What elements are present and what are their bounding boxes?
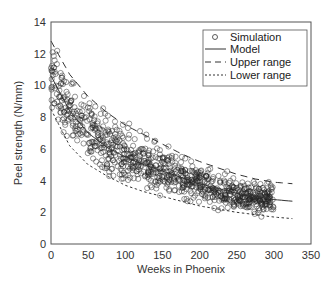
x-tick-label: 300	[265, 249, 283, 261]
y-tick-label: 4	[40, 175, 46, 187]
legend-simulation: Simulation	[230, 31, 281, 43]
y-axis-ticks: 02468101214	[34, 16, 46, 250]
legend-upper: Upper range	[230, 56, 291, 68]
x-tick-label: 0	[48, 249, 54, 261]
peel-strength-chart: 02468101214 050100150200250300350 Weeks …	[0, 0, 336, 290]
x-tick-label: 150	[153, 249, 171, 261]
legend-model: Model	[230, 43, 260, 55]
y-tick-label: 2	[40, 206, 46, 218]
x-tick-label: 100	[116, 249, 134, 261]
y-axis-label: Peel strength (N/mm)	[12, 81, 24, 186]
y-tick-label: 0	[40, 238, 46, 250]
x-tick-label: 250	[228, 249, 246, 261]
legend: Simulation Model Upper range Lower range	[203, 30, 307, 86]
y-tick-label: 14	[34, 16, 46, 28]
x-tick-label: 350	[302, 249, 320, 261]
y-tick-label: 6	[40, 143, 46, 155]
legend-lower: Lower range	[230, 69, 291, 81]
x-tick-label: 50	[82, 249, 94, 261]
y-tick-label: 8	[40, 111, 46, 123]
x-axis-ticks: 050100150200250300350	[48, 249, 320, 261]
x-tick-label: 200	[190, 249, 208, 261]
y-tick-label: 10	[34, 79, 46, 91]
x-axis-label: Weeks in Phoenix	[137, 263, 225, 275]
y-tick-label: 12	[34, 48, 46, 60]
lower-range-curve	[51, 109, 292, 218]
